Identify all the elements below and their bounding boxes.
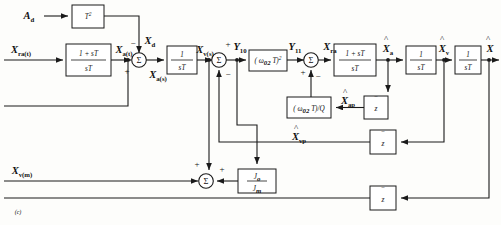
label-x-hat: X — [485, 43, 494, 54]
lead-block-1-denominator: sT — [85, 65, 93, 73]
summing-junction-1-glyph: Σ — [137, 55, 142, 65]
sum1-sign-minus: − — [130, 38, 135, 48]
integrator-2-numerator: 1 — [419, 51, 423, 59]
summing-junction-2-glyph: Σ — [217, 55, 222, 65]
omega-over-q-block-label: ( ω02 T)/Q — [293, 105, 325, 114]
label-x-ap-hat: Xap — [340, 95, 355, 108]
label-y-10: Y10 — [233, 41, 247, 54]
label-x-vp-hat: Xvp — [291, 131, 306, 144]
delay-3-label: z — [381, 195, 385, 204]
label-x-a-hat: Xa — [382, 43, 394, 56]
label-a-d: Ad — [23, 10, 35, 23]
summing-junction-4-glyph: Σ — [204, 176, 209, 186]
integrator-3-numerator: 1 — [466, 51, 470, 59]
label-x-v-hat: Xv — [438, 43, 450, 56]
label-layer: Ad T2 Xd Xra(t) 1 + sT sT Xa(t) Σ − + Xa… — [0, 0, 501, 225]
delay-2-label: z — [381, 139, 385, 148]
integrator-1-denominator: sT — [179, 64, 187, 72]
sum4-sign-plus-2: + — [219, 164, 224, 174]
block-diagram-figure: Ad T2 Xd Xra(t) 1 + sT sT Xa(t) Σ − + Xa… — [0, 0, 501, 225]
sum2-sign-minus: − — [225, 69, 230, 79]
sum1-sign-plus: + — [124, 66, 129, 76]
omega-squared-block-label: ( ω02 T)2 — [255, 55, 282, 66]
integrator-1-numerator: 1 — [180, 51, 184, 59]
lead-block-2-denominator: sT — [352, 65, 360, 73]
lead-block-1-numerator: 1 + sT — [79, 50, 99, 58]
integrator-2-denominator: sT — [418, 64, 426, 72]
t-squared-block-label: T2 — [85, 11, 92, 21]
label-x-v-m: Xv(m) — [11, 165, 33, 179]
lead-block-2-numerator: 1 + sT — [346, 50, 366, 58]
inertia-ratio-denominator: Jm — [253, 185, 262, 194]
figure-caption: (c) — [15, 209, 22, 216]
label-x-ra: Xra — [322, 41, 337, 54]
inertia-ratio-numerator: Jo — [254, 173, 261, 182]
sum4-sign-plus-1: + — [194, 159, 199, 169]
label-x-d: Xd — [144, 35, 156, 48]
label-y-11: Y11 — [289, 41, 302, 54]
summing-junction-3-glyph: Σ — [309, 55, 314, 65]
label-x-ra-t: Xra(t) — [10, 44, 31, 58]
sum3-sign-plus: + — [300, 67, 305, 77]
label-x-v-s: Xv(s) — [195, 44, 214, 58]
delay-1-label: z — [374, 104, 378, 113]
sum2-sign-plus: + — [225, 39, 230, 49]
label-x-a-s: Xa(s) — [148, 69, 167, 83]
sum3-sign-minus: − — [315, 71, 320, 81]
integrator-3-denominator: sT — [465, 64, 473, 72]
